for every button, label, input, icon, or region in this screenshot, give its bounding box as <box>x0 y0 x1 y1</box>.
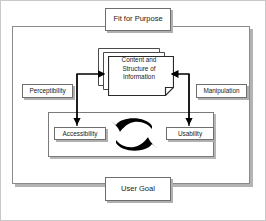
node-accessibility-label: Accessibility <box>63 130 98 138</box>
node-user-goal-label: User Goal <box>121 185 155 194</box>
content-label-line-2: Structure of <box>110 65 168 74</box>
content-document-label: Content and Structure of Information <box>110 56 168 82</box>
node-fit-for-purpose-label: Fit for Purpose <box>113 15 162 24</box>
node-manipulation[interactable]: Manipulation <box>196 84 247 98</box>
node-perceptibility[interactable]: Perceptibility <box>22 84 73 98</box>
node-accessibility[interactable]: Accessibility <box>54 127 106 140</box>
node-usability[interactable]: Usability <box>166 127 214 140</box>
diagram-canvas: Content and Structure of Information Fit… <box>0 0 266 221</box>
content-label-line-1: Content and <box>110 56 168 65</box>
node-perceptibility-label: Perceptibility <box>29 87 65 95</box>
cycle-arrow-top <box>111 118 152 132</box>
node-fit-for-purpose[interactable]: Fit for Purpose <box>105 8 171 31</box>
cycle-arrows <box>108 112 160 157</box>
node-usability-label: Usability <box>178 130 202 138</box>
node-user-goal[interactable]: User Goal <box>105 177 171 201</box>
node-manipulation-label: Manipulation <box>203 87 239 95</box>
content-label-line-3: Information <box>110 73 168 82</box>
cycle-arrow-bottom <box>116 137 157 151</box>
